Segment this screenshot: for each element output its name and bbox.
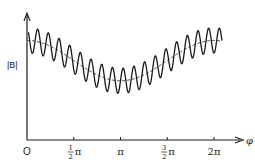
axes: φ |B| bbox=[7, 13, 253, 146]
x-tick-label-numerator: 1 bbox=[69, 144, 73, 152]
series-rippled-line bbox=[28, 28, 221, 93]
x-tick-label-denominator: 2 bbox=[69, 153, 73, 161]
x-tick-label-pi: π bbox=[75, 146, 82, 157]
x-tick-label-numerator: 3 bbox=[162, 144, 166, 152]
x-ticks: O12ππ32π2π bbox=[23, 137, 221, 161]
x-tick-label: 2π bbox=[208, 146, 221, 157]
x-tick-label-denominator: 2 bbox=[162, 153, 166, 161]
x-tick-label: π bbox=[117, 146, 124, 157]
y-axis-label: |B| bbox=[7, 60, 18, 70]
x-tick-label-pi: π bbox=[168, 146, 175, 157]
x-tick-label: 32π bbox=[161, 144, 175, 161]
chart: φ |B| O12ππ32π2π bbox=[0, 0, 255, 165]
x-tick-label: 12π bbox=[68, 144, 82, 161]
x-axis-label: φ bbox=[246, 135, 253, 146]
x-tick-label: O bbox=[23, 146, 31, 157]
